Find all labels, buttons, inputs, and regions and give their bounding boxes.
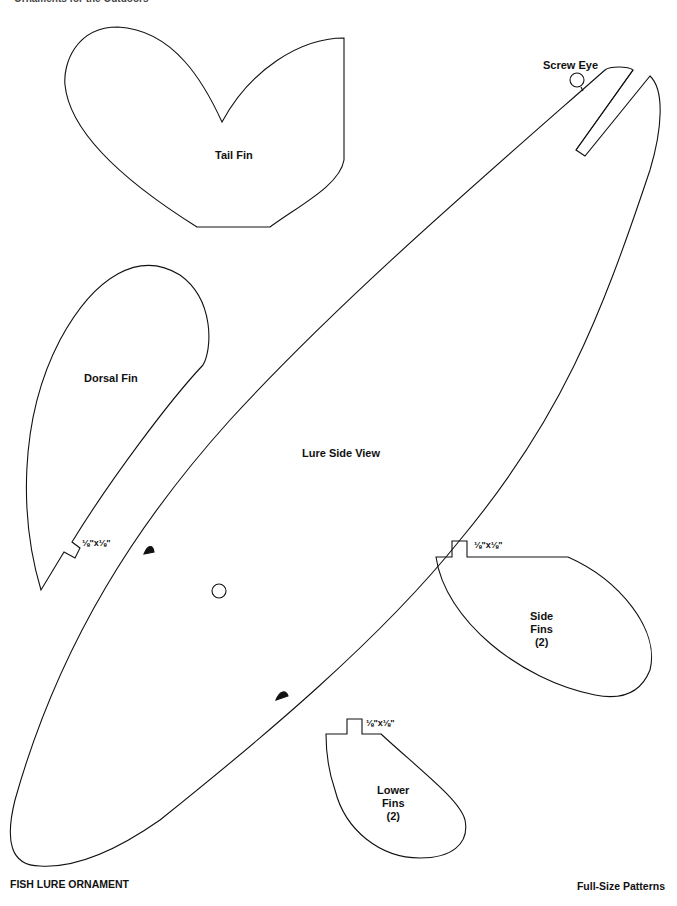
footer-title: FISH LURE ORNAMENT — [10, 878, 129, 890]
dim-side-tab: ⅛"x⅛" — [474, 540, 503, 550]
side-fins-line1: Side — [530, 610, 553, 623]
pattern-sheet: Ornaments for the Outdoors Tail Fin Scre… — [0, 0, 677, 906]
label-dorsal-fin: Dorsal Fin — [84, 372, 138, 385]
label-screw-eye: Screw Eye — [543, 59, 598, 72]
tail-fin-outline — [65, 27, 344, 227]
lure-eye-hole — [212, 584, 226, 598]
label-side-fins: Side Fins (2) — [530, 610, 553, 649]
lower-mount-mark — [276, 692, 288, 700]
side-fins-line2: Fins — [530, 623, 553, 636]
dim-lower-tab: ⅛"x⅛" — [366, 718, 395, 728]
dorsal-fin-outline — [26, 265, 208, 590]
side-fins-line3: (2) — [530, 636, 553, 649]
lower-fins-line2: Fins — [377, 797, 409, 810]
screw-eye-ring — [570, 73, 584, 87]
footer-subtitle: Full-Size Patterns — [577, 880, 665, 892]
label-lure-side-view: Lure Side View — [302, 447, 380, 460]
lower-fins-line1: Lower — [377, 784, 409, 797]
label-tail-fin: Tail Fin — [215, 149, 253, 162]
lure-body-outline — [10, 67, 660, 866]
dorsal-mount-mark — [144, 547, 154, 554]
label-lower-fins: Lower Fins (2) — [377, 784, 409, 823]
lower-fins-line3: (2) — [377, 810, 409, 823]
dim-dorsal-tab: ⅛"x⅛" — [82, 538, 111, 548]
